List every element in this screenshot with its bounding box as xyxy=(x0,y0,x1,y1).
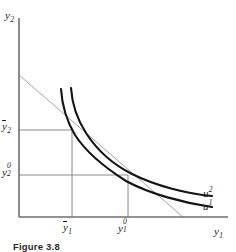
indifference-curve-plot xyxy=(0,0,236,252)
figure-caption: Figure 3.8 xyxy=(13,241,60,252)
indifference-curve-u1 xyxy=(61,89,212,207)
tick-label-y1-bar: y1 xyxy=(63,222,72,233)
budget-line xyxy=(19,75,183,217)
tick-label-y1-0: y01 xyxy=(118,221,128,234)
curve-label-u1: u1 xyxy=(203,201,212,212)
indifference-curve-u2 xyxy=(71,88,212,196)
tick-label-y2-0: y02 xyxy=(2,165,12,178)
x-axis-label: y1 xyxy=(214,226,223,237)
y-axis-label: y2 xyxy=(5,10,14,21)
figure-container: y2 y1 y2 y02 y1 y01 u2 u1 Figure 3.8 xyxy=(0,0,236,252)
axes xyxy=(19,18,228,217)
tick-label-y2-bar: y2 xyxy=(2,121,11,132)
guide-lines xyxy=(19,130,128,217)
